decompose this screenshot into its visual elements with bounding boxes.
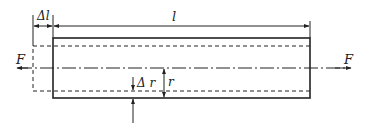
delta-l-label: Δl [36,9,50,23]
delta-r-label: Δ r [136,76,156,90]
force-right-label: F [343,52,354,67]
length-l-label: l [172,9,176,24]
rod-tension-diagram: Δl l F F Δ r r [0,0,375,129]
force-left-label: F [15,52,26,67]
radius-r-label: r [168,75,175,89]
